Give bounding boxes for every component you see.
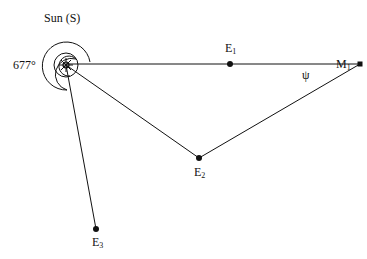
orbit-diagram: Sun (S) 677° ψ E1 M1 E2 E3 [0,0,367,259]
psi-label: ψ [302,68,310,82]
e2-label: E2 [194,165,205,180]
line-sun-e2 [66,65,199,158]
m1-label: M1 [336,57,351,72]
point-m1 [358,62,363,67]
line-sun-e3 [66,65,96,229]
angle-label: 677° [13,58,36,72]
e3-label: E3 [92,235,103,250]
sun-label: Sun (S) [44,11,80,25]
line-e2-m1 [199,64,360,158]
point-e3 [93,226,99,232]
e1-label: E1 [225,41,236,56]
point-e1 [227,61,233,67]
point-e2 [196,155,202,161]
sun-icon [59,58,73,72]
